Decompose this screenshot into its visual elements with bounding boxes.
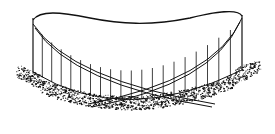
stippled-ground bbox=[16, 62, 261, 111]
wall-posts bbox=[42, 30, 230, 100]
left-arch-outer bbox=[33, 24, 215, 104]
figure-canvas bbox=[0, 0, 275, 134]
roof-top-edge bbox=[33, 12, 242, 24]
arches bbox=[33, 18, 242, 107]
saddle-roof-drawing bbox=[0, 0, 275, 134]
